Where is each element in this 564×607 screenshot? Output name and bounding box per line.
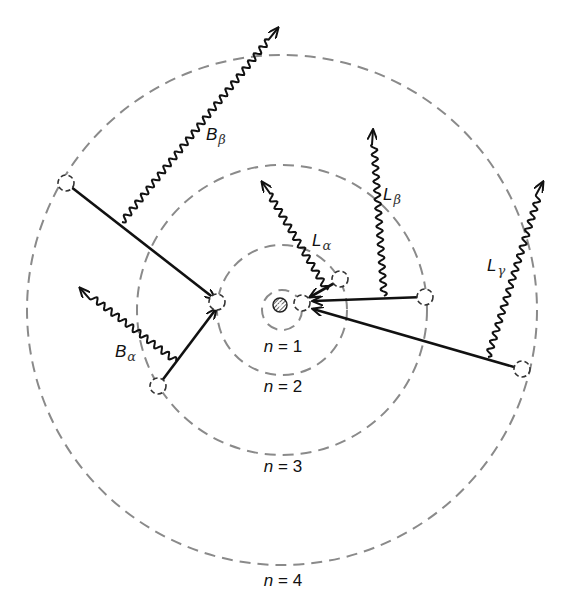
photon-wave-l-beta xyxy=(371,130,387,296)
photon-label-l-alpha: Lα xyxy=(312,231,331,253)
electron-n3 xyxy=(417,289,433,305)
photon-label-b-beta: Bβ xyxy=(206,125,226,147)
orbit-label-n3: n = 3 xyxy=(264,457,302,476)
electron-n4 xyxy=(514,361,530,377)
orbit-label-n2: n = 2 xyxy=(264,377,302,396)
photon-label-b-alpha: Bα xyxy=(115,342,136,364)
nucleus xyxy=(273,298,287,312)
electron-n2 xyxy=(332,271,348,287)
photon-label-l-beta: Lβ xyxy=(383,185,401,207)
photon-group xyxy=(80,28,543,361)
electron-n4 xyxy=(58,175,74,191)
electron-n3 xyxy=(150,378,166,394)
transition-arrow-b-alpha xyxy=(158,309,216,386)
orbit-label-n1: n = 1 xyxy=(264,337,302,356)
electron-n2 xyxy=(209,294,225,310)
photon-wave-b-beta xyxy=(122,28,278,222)
photon-label-l-gamma: Lγ xyxy=(487,256,505,278)
transition-arrow-l-gamma xyxy=(313,309,521,369)
orbit-label-n4: n = 4 xyxy=(264,571,302,590)
bohr-atom-diagram: n = 1n = 2n = 3n = 4BβBαLαLβLγ xyxy=(0,0,564,607)
electron-n1 xyxy=(294,295,310,311)
transition-arrow-l-beta xyxy=(313,297,424,301)
